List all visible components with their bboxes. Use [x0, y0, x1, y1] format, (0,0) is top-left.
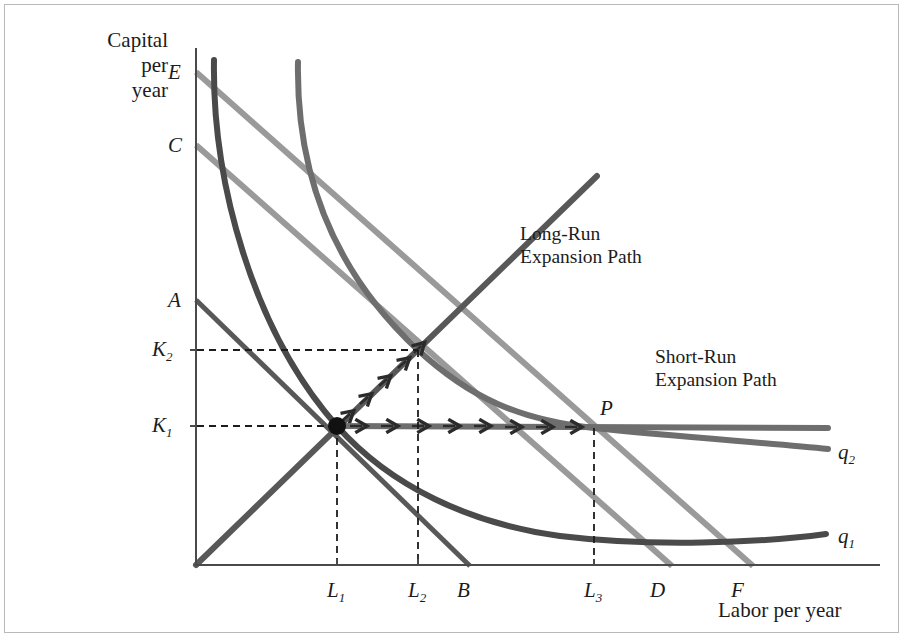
- y-tick-label-A: A: [168, 288, 181, 313]
- y-tick-label-A-text: A: [168, 288, 181, 312]
- y-axis-title-line1: Capital: [58, 28, 168, 53]
- axis-lines: [195, 48, 880, 566]
- y-tick-label-E: E: [168, 60, 181, 85]
- x-tick-label-L2-text: L: [408, 578, 420, 602]
- isoquant-label-q2-text: q: [838, 440, 849, 464]
- isocost-line-CD: [196, 145, 672, 566]
- long-run-label-line1: Long-Run: [520, 222, 642, 245]
- tangency-point-marker: [328, 417, 346, 435]
- short-run-expansion-path-label: Short-Run Expansion Path: [655, 345, 777, 391]
- figure-container: Capital per year Labor per year E C A K2…: [0, 0, 904, 638]
- isoquant-curve-q1: [214, 60, 826, 543]
- x-tick-label-B: B: [457, 578, 470, 603]
- y-tick-label-C: C: [168, 133, 182, 158]
- point-label-P: P: [600, 396, 613, 421]
- x-tick-label-L2: L2: [408, 578, 426, 606]
- x-tick-label-F-text: F: [731, 578, 744, 602]
- y-tick-label-K1-sub: 1: [166, 425, 173, 440]
- y-tick-label-K2-text: K: [152, 337, 166, 361]
- isoquant-label-q1-sub: 1: [849, 536, 856, 551]
- x-tick-label-L1-text: L: [327, 578, 339, 602]
- y-axis-title-line2: per: [58, 53, 168, 78]
- x-tick-label-D-text: D: [650, 578, 665, 602]
- x-tick-label-D: D: [650, 578, 665, 603]
- y-tick-label-K1-text: K: [152, 413, 166, 437]
- short-run-expansion-path: [337, 426, 828, 428]
- isoquant-label-q1-text: q: [838, 524, 849, 548]
- y-tick-label-C-text: C: [168, 133, 182, 157]
- x-tick-label-L2-sub: 2: [420, 590, 427, 605]
- x-tick-label-L3-text: L: [584, 578, 596, 602]
- y-tick-label-K2-sub: 2: [166, 349, 173, 364]
- x-tick-label-F: F: [731, 578, 744, 603]
- long-run-label-line2: Expansion Path: [520, 245, 642, 268]
- y-tick-label-K1: K1: [152, 413, 173, 441]
- x-tick-label-L1: L1: [327, 578, 345, 606]
- y-axis-title-line3: year: [58, 78, 168, 103]
- short-run-label-line2: Expansion Path: [655, 368, 777, 391]
- short-run-label-line1: Short-Run: [655, 345, 777, 368]
- y-axis-title: Capital per year: [58, 28, 168, 102]
- isoquant-label-q1: q1: [838, 524, 855, 552]
- x-tick-label-B-text: B: [457, 578, 470, 602]
- y-tick-label-K2: K2: [152, 337, 173, 365]
- isoquant-label-q2: q2: [838, 440, 855, 468]
- isoquant-label-q2-sub: 2: [849, 452, 856, 467]
- isocost-line-EF: [196, 72, 753, 566]
- x-tick-label-L3: L3: [584, 578, 602, 606]
- x-tick-label-L3-sub: 3: [596, 590, 603, 605]
- x-tick-label-L1-sub: 1: [339, 590, 346, 605]
- y-tick-label-E-text: E: [168, 60, 181, 84]
- long-run-expansion-path-label: Long-Run Expansion Path: [520, 222, 642, 268]
